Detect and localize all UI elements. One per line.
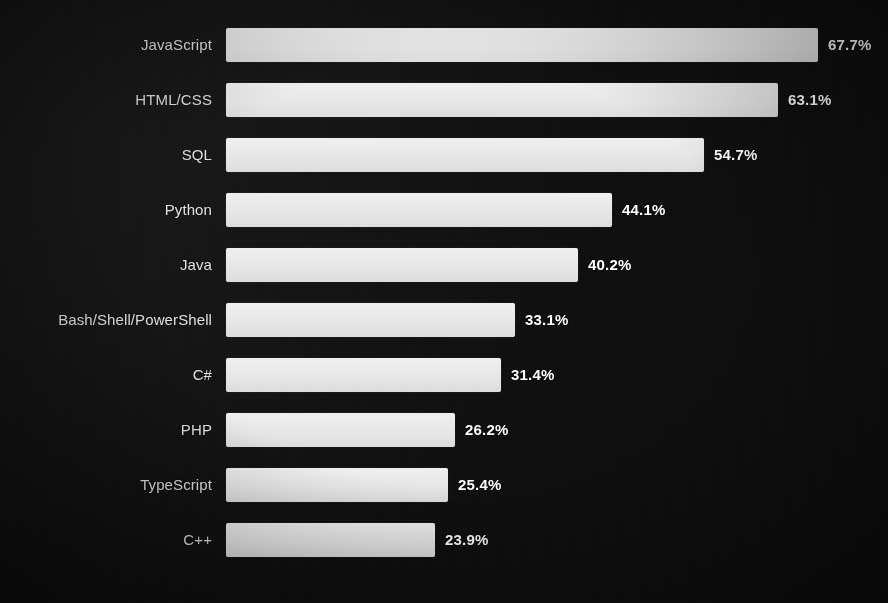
bar-fill <box>226 303 515 337</box>
category-label: SQL <box>0 138 212 172</box>
bar-track: 54.7% <box>226 138 888 172</box>
bar-fill <box>226 83 778 117</box>
category-label: PHP <box>0 413 212 447</box>
bar-row: TypeScript25.4% <box>0 468 888 502</box>
bar-row: Python44.1% <box>0 193 888 227</box>
bar-track: 33.1% <box>226 303 888 337</box>
bar-value-label: 54.7% <box>714 138 758 172</box>
bar-fill <box>226 468 448 502</box>
bar-track: 26.2% <box>226 413 888 447</box>
bar-row: JavaScript67.7% <box>0 28 888 62</box>
bar-value-label: 23.9% <box>445 523 489 557</box>
bar-track: 67.7% <box>226 28 888 62</box>
bar-row: Java40.2% <box>0 248 888 282</box>
bar-fill <box>226 28 818 62</box>
bar-value-label: 67.7% <box>828 28 872 62</box>
category-label: Python <box>0 193 212 227</box>
bar-value-label: 33.1% <box>525 303 569 337</box>
category-label: Bash/Shell/PowerShell <box>0 303 212 337</box>
bar-fill <box>226 138 704 172</box>
category-label: C# <box>0 358 212 392</box>
category-label: JavaScript <box>0 28 212 62</box>
bar-value-label: 26.2% <box>465 413 509 447</box>
bar-track: 63.1% <box>226 83 888 117</box>
plot-area: JavaScript67.7%HTML/CSS63.1%SQL54.7%Pyth… <box>0 0 888 603</box>
bar-track: 25.4% <box>226 468 888 502</box>
bar-value-label: 44.1% <box>622 193 666 227</box>
bar-row: Bash/Shell/PowerShell33.1% <box>0 303 888 337</box>
bar-value-label: 31.4% <box>511 358 555 392</box>
bar-row: C#31.4% <box>0 358 888 392</box>
bar-chart: JavaScript67.7%HTML/CSS63.1%SQL54.7%Pyth… <box>0 0 888 603</box>
bar-row: HTML/CSS63.1% <box>0 83 888 117</box>
bar-track: 40.2% <box>226 248 888 282</box>
bar-fill <box>226 193 612 227</box>
bar-value-label: 25.4% <box>458 468 502 502</box>
bar-fill <box>226 523 435 557</box>
bar-fill <box>226 413 455 447</box>
bar-value-label: 40.2% <box>588 248 632 282</box>
category-label: Java <box>0 248 212 282</box>
bar-row: PHP26.2% <box>0 413 888 447</box>
bar-value-label: 63.1% <box>788 83 832 117</box>
category-label: HTML/CSS <box>0 83 212 117</box>
category-label: C++ <box>0 523 212 557</box>
bar-track: 31.4% <box>226 358 888 392</box>
bar-row: C++23.9% <box>0 523 888 557</box>
category-label: TypeScript <box>0 468 212 502</box>
bar-fill <box>226 248 578 282</box>
bar-track: 44.1% <box>226 193 888 227</box>
bar-track: 23.9% <box>226 523 888 557</box>
bar-row: SQL54.7% <box>0 138 888 172</box>
bar-fill <box>226 358 501 392</box>
